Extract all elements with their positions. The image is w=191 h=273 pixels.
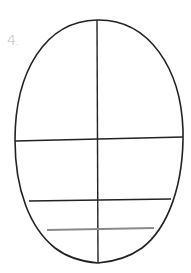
eye-guide-line bbox=[15, 137, 183, 141]
mouth-guide-line bbox=[47, 228, 154, 230]
vertical-center-line bbox=[97, 20, 98, 263]
nose-guide-line bbox=[29, 199, 171, 201]
face-outline bbox=[15, 20, 183, 263]
face-diagram bbox=[0, 0, 191, 273]
